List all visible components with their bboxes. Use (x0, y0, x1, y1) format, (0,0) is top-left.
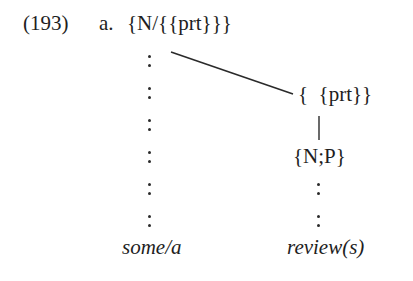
right-node-label: { {prt}} (298, 84, 372, 105)
colon-dots (148, 55, 151, 69)
colon-dots (317, 183, 320, 197)
example-number: (193) (23, 13, 69, 34)
right-gloss: review(s) (287, 237, 364, 258)
example-sub-label: a. (99, 13, 114, 34)
colon-dots (148, 87, 151, 101)
left-gloss: some/a (122, 237, 182, 258)
colon-dots (148, 215, 151, 229)
colon-dots (148, 183, 151, 197)
colon-dots (148, 119, 151, 133)
colon-dots (148, 151, 151, 165)
diagonal-dependency-line (171, 52, 293, 94)
top-node-label: {N/{{prt}}} (127, 13, 232, 34)
right-lower-node-label: {N;P} (293, 146, 346, 167)
colon-dots (317, 215, 320, 229)
